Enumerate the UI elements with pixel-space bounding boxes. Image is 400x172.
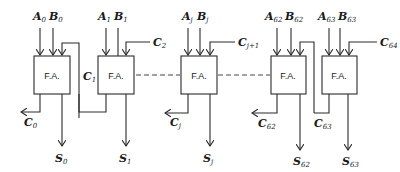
carry-in-cj1-arrow bbox=[210, 42, 235, 55]
label-s62: S62 bbox=[293, 155, 310, 169]
label-b1: B1 bbox=[113, 10, 128, 24]
label-c62: C62 bbox=[258, 117, 276, 131]
label-s1: S1 bbox=[119, 152, 131, 166]
label-b63: B63 bbox=[337, 10, 357, 24]
block-label: F.A. bbox=[331, 71, 347, 81]
label-cj1: Cj+1 bbox=[238, 36, 259, 50]
block-label: F.A. bbox=[44, 71, 60, 81]
label-cj: Cj bbox=[170, 116, 182, 130]
label-b0: B0 bbox=[48, 10, 63, 24]
label-c64: C64 bbox=[380, 36, 398, 50]
label-s63: S63 bbox=[342, 155, 359, 169]
carry-out-c63-wire bbox=[314, 94, 329, 113]
carry-out-c1-wire bbox=[79, 94, 106, 112]
carry-out-c0-arrow bbox=[21, 94, 40, 112]
label-c63: C63 bbox=[314, 117, 332, 131]
label-a62: A62 bbox=[264, 10, 283, 24]
label-a63: A63 bbox=[317, 10, 336, 24]
full-adder-stage-63: F.A. A63 B63 C64 C63 S63 bbox=[314, 10, 398, 169]
full-adder-stage-1: F.A. A1 B1 C1 C2 S1 bbox=[79, 10, 167, 166]
label-c2: C2 bbox=[153, 36, 167, 50]
label-a0: A0 bbox=[32, 10, 47, 24]
carry-out-c62-arrow bbox=[252, 94, 277, 113]
ripple-carry-adder-diagram: F.A. A0 B0 C0 S0 F.A. A1 B1 C1 C2 S1 F.A… bbox=[0, 0, 400, 172]
label-bj: Bj bbox=[196, 10, 209, 24]
carry-out-cj-arrow bbox=[165, 94, 188, 113]
label-c1: C1 bbox=[83, 70, 96, 84]
block-label: F.A. bbox=[191, 71, 207, 81]
label-c0: C0 bbox=[24, 116, 38, 130]
label-b62: B62 bbox=[284, 10, 304, 24]
label-a1: A1 bbox=[97, 10, 111, 24]
carry-in-c2-arrow bbox=[126, 42, 150, 55]
carry-in-c64-arrow bbox=[349, 42, 377, 55]
label-aj: Aj bbox=[181, 10, 194, 24]
full-adder-stage-j: F.A. Aj Bj Cj+1 Cj Sj bbox=[165, 10, 259, 166]
block-label: F.A. bbox=[280, 71, 296, 81]
label-sj: Sj bbox=[203, 152, 214, 166]
label-s0: S0 bbox=[55, 152, 68, 166]
full-adder-stage-0: F.A. A0 B0 C0 S0 bbox=[21, 10, 79, 166]
full-adder-stage-62: F.A. A62 B62 C62 S62 bbox=[252, 10, 314, 169]
diagram-svg: F.A. A0 B0 C0 S0 F.A. A1 B1 C1 C2 S1 F.A… bbox=[0, 0, 400, 172]
block-label: F.A. bbox=[108, 71, 124, 81]
